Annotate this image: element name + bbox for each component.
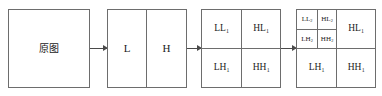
subband-LH1-cell-level2: LH1 (297, 49, 336, 87)
subband-HH2-label: HH2 (321, 36, 333, 43)
subband-HL1-cell-level2: HL1 (337, 10, 375, 48)
wavelet-decomposition-diagram: 原图 L H LL1 HL1 LH1 HH1 LL2 HL2 LH2 (0, 0, 382, 96)
subband-LL1-cell: LL1 (202, 10, 241, 48)
subband-LH2-label: LH2 (301, 36, 313, 43)
subband-HL2-cell: HL2 (318, 10, 336, 29)
subband-LL1-label: LL1 (214, 24, 229, 34)
subband-LL2-cell: LL2 (297, 10, 317, 29)
arrow-split-to-level1-icon (187, 48, 201, 49)
subband-HH1-cell-level2: HH1 (337, 49, 375, 87)
arrow-level1-to-level2-icon (281, 48, 296, 49)
subband-HH1-cell: HH1 (242, 49, 280, 87)
lowpass-L-label: L (124, 43, 131, 54)
subband-LH2-cell: LH2 (297, 30, 317, 48)
original-image-label: 原图 (8, 9, 90, 88)
subband-HH1-label-level2: HH1 (348, 63, 365, 73)
highpass-H-label: H (163, 43, 171, 54)
arrow-original-to-split-icon (90, 48, 107, 49)
subband-HL1-label-level2: HL1 (348, 24, 364, 34)
subband-HL1-cell: HL1 (242, 10, 280, 48)
subband-LH1-label: LH1 (214, 63, 230, 73)
subband-HL1-label: HL1 (253, 24, 269, 34)
original-image-text: 原图 (39, 44, 59, 54)
subband-LL2-label: LL2 (302, 16, 313, 23)
lowpass-L-cell: L (108, 10, 146, 87)
subband-LH1-label-level2: LH1 (309, 63, 325, 73)
subband-HH1-label: HH1 (253, 63, 270, 73)
subband-LH1-cell: LH1 (202, 49, 241, 87)
highpass-H-cell: H (147, 10, 186, 87)
subband-HL2-label: HL2 (321, 16, 333, 23)
subband-HH2-cell: HH2 (318, 30, 336, 48)
